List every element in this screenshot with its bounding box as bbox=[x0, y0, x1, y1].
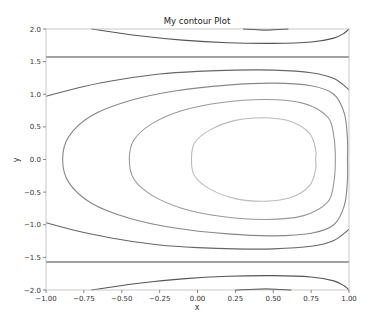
y-tick-label: 2.0 bbox=[30, 26, 41, 34]
y-axis-label: y bbox=[12, 157, 21, 162]
x-tick-label: −0.25 bbox=[149, 295, 170, 303]
x-tick-label: −1.00 bbox=[35, 295, 56, 303]
x-tick-label: 0.75 bbox=[303, 295, 319, 303]
x-tick-label: −0.50 bbox=[111, 295, 132, 303]
x-axis-label: x bbox=[195, 303, 200, 312]
x-tick-label: 1.00 bbox=[341, 295, 357, 303]
contour-oval-inner bbox=[191, 118, 316, 202]
contour-top-outer bbox=[91, 29, 349, 43]
contour-chart: My contour Plot −1.00−0.75−0.50−0.250.00… bbox=[0, 0, 372, 323]
x-tick-label: 0.00 bbox=[190, 295, 206, 303]
plot-frame bbox=[46, 29, 349, 290]
contour-oval-outer bbox=[63, 83, 348, 236]
y-tick-label: −2.0 bbox=[24, 287, 41, 295]
contour-lines bbox=[46, 29, 349, 290]
y-tick-label: 0.5 bbox=[30, 123, 41, 131]
x-tick-label: 0.25 bbox=[228, 295, 244, 303]
y-tick-label: −1.0 bbox=[24, 221, 41, 229]
x-tick-label: −0.75 bbox=[73, 295, 94, 303]
y-tick-label: 1.0 bbox=[30, 91, 41, 99]
y-axis-ticks: −2.0−1.5−1.0−0.50.00.51.01.52.0 bbox=[24, 26, 46, 295]
x-tick-label: 0.50 bbox=[265, 295, 281, 303]
y-tick-label: 1.5 bbox=[30, 58, 41, 66]
y-tick-label: −1.5 bbox=[24, 254, 41, 262]
chart-title: My contour Plot bbox=[164, 16, 231, 26]
contour-oval-middle bbox=[129, 99, 335, 219]
contour-upper-open bbox=[46, 70, 349, 96]
y-tick-label: −0.5 bbox=[24, 189, 41, 197]
contour-bottom-outer bbox=[91, 276, 349, 290]
y-tick-label: 0.0 bbox=[30, 156, 41, 164]
x-axis-ticks: −1.00−0.75−0.50−0.250.000.250.500.751.00 bbox=[35, 290, 357, 303]
contour-lower-open bbox=[46, 223, 349, 249]
